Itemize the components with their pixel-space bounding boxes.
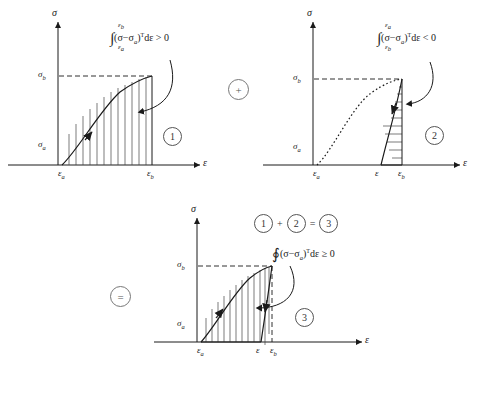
panel-1-relation: > 0 (156, 32, 169, 43)
circled-plus-operator: + (228, 79, 249, 100)
panel-2-y-tick-sigma-b-sub: b (297, 77, 300, 84)
panel-2-y-tick-sigma-a: σa (293, 142, 301, 153)
panel-1-curve-direction-arrow (85, 132, 92, 140)
panel-3-hatching (206, 267, 269, 345)
panel-2-upper-limit-sub: a (388, 23, 391, 30)
panel-3-contour-integral-symbol: ∮ (272, 246, 280, 262)
panel-2-loading-curve-dotted (317, 79, 402, 165)
panel-2-x-tick-eps-b: εb (398, 169, 405, 180)
panel-1-y-tick-sigma-b-sub: b (42, 74, 45, 81)
panel-3-x-tick-eps-b-sub: b (274, 350, 277, 357)
panel-1-callout-arrow (140, 60, 173, 112)
panel-3-x-tick-eps-a-sub: a (201, 350, 204, 357)
circled-equals-glyph: = (117, 291, 123, 303)
panel-2-x-tick-eps: ε (375, 169, 379, 180)
panel-1-x-tick-eps-b: εb (147, 169, 154, 180)
panel-1-badge: 1 (163, 127, 182, 146)
panel-3-x-tick-eps-glyph: ε (256, 345, 260, 355)
panel-1-lower-limit-sub: a (121, 45, 124, 52)
circled-equals-operator: = (110, 286, 131, 307)
panel-1-y-tick-sigma-a: σa (38, 140, 46, 151)
panel-1-x-axis-label: ε (203, 158, 207, 168)
panel-2-x-tick-eps-glyph: ε (375, 168, 379, 178)
panel-3-integrand: (σ−σ (280, 248, 300, 259)
panel-2-integral-expression: εa ∫(σ−σa)Tdε < 0 εb (377, 22, 436, 53)
sum-term-1: 1 (254, 214, 273, 233)
panel-3-x-axis-label: ε (365, 335, 369, 345)
panel-3-differential: dε (310, 248, 319, 259)
panel-1: σ ε σb σa εa εb εb ∫(σ−σa)Tdε > 0 εa 1 (0, 0, 235, 195)
panel-3-x-tick-eps-b: εb (270, 346, 277, 357)
panel-2-integrand: (σ−σ (381, 32, 401, 43)
sum-equation: 1 + 2 = 3 (254, 214, 338, 233)
panel-3-relation: ≥ 0 (322, 248, 335, 259)
panel-1-hatching (69, 77, 146, 165)
panel-2-x-axis-label: ε (463, 158, 467, 168)
panel-1-integral-upper-limit: εb (118, 22, 169, 31)
panel-3-integral-expression: ∮(σ−σa)Tdε ≥ 0 (272, 247, 335, 262)
panel-1-y-tick-sigma-b: σb (38, 70, 46, 81)
panel-3-callout-arrow (258, 266, 294, 308)
sum-operator-equals: = (310, 218, 316, 229)
panel-2-y-tick-sigma-a-sub: a (297, 146, 300, 153)
panel-2-lower-limit-sub: b (388, 45, 391, 52)
panel-2-differential: dε (411, 32, 420, 43)
panel-1-y-axis-label: σ (52, 8, 57, 18)
panel-1-x-tick-eps-a-sub: a (62, 173, 65, 180)
sum-term-2: 2 (287, 214, 306, 233)
panel-1-stress-strain-curve (62, 76, 152, 165)
panel-3-loading-branch (201, 266, 272, 342)
panel-3-y-tick-sigma-b: σb (177, 260, 185, 271)
panel-3-y-tick-sigma-a-sub: a (181, 323, 184, 330)
panel-2-integral-upper-limit: εa (385, 22, 436, 31)
panel-3-x-tick-eps-a: εa (197, 346, 204, 357)
panel-2-relation: < 0 (423, 32, 436, 43)
panel-3-y-tick-sigma-a: σa (177, 319, 185, 330)
panel-3-badge: 3 (295, 308, 314, 327)
panel-2-callout-arrow (408, 62, 433, 104)
panel-1-y-tick-sigma-a-sub: a (42, 144, 45, 151)
panel-2-x-tick-eps-a: εa (313, 169, 320, 180)
panel-1-upper-limit-sub: b (121, 23, 124, 30)
panel-2-x-tick-eps-a-sub: a (317, 173, 320, 180)
panel-3-x-tick-eps: ε (256, 346, 260, 357)
panel-2-unloading-curve (381, 79, 402, 165)
panel-2-y-axis-label: σ (307, 8, 312, 18)
sum-operator-plus: + (277, 218, 283, 229)
panel-3-y-tick-sigma-b-sub: b (181, 264, 184, 271)
panel-3: σ ε σb σa εa ε εb 1 + 2 = 3 ∮(σ−σa)Tdε ≥… (150, 196, 400, 394)
panel-2-x-tick-eps-b-sub: b (402, 173, 405, 180)
panel-3-y-axis-label: σ (191, 204, 196, 214)
panel-1-integral-expression: εb ∫(σ−σa)Tdε > 0 εa (110, 22, 169, 53)
panel-1-differential: dε (144, 32, 153, 43)
sum-result-3: 3 (319, 214, 338, 233)
panel-2-badge: 2 (425, 126, 444, 145)
panel-2: σ ε σb σa εa ε εb εa ∫(σ−σa)Tdε < 0 εb 2 (255, 0, 502, 195)
panel-2-y-tick-sigma-b: σb (293, 73, 301, 84)
panel-1-integrand: (σ−σ (114, 32, 134, 43)
panel-1-x-tick-eps-a: εa (58, 169, 65, 180)
panel-1-x-tick-eps-b-sub: b (151, 173, 154, 180)
